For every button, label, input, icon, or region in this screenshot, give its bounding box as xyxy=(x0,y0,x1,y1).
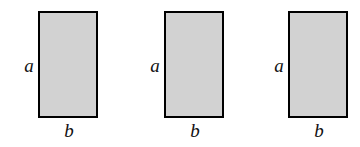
figure-canvas: a b a b a b xyxy=(0,0,360,147)
rectangle-shape-3 xyxy=(288,11,348,118)
rectangle-3-height-label-a: a xyxy=(271,56,287,75)
rectangle-shape-2 xyxy=(164,11,224,118)
rectangle-3-width-label-b: b xyxy=(311,121,327,140)
rectangle-1-width-label-b: b xyxy=(61,121,77,140)
rectangle-shape-1 xyxy=(38,11,98,118)
rectangle-1-height-label-a: a xyxy=(21,56,37,75)
rectangle-2-width-label-b: b xyxy=(187,121,203,140)
rectangle-2-height-label-a: a xyxy=(147,56,163,75)
